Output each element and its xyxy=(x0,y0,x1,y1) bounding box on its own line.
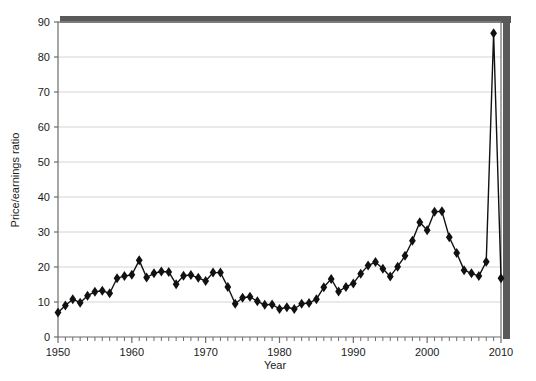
y-tick-label: 0 xyxy=(44,331,50,343)
y-tick-label: 70 xyxy=(38,86,50,98)
y-tick-label: 80 xyxy=(38,51,50,63)
y-axis-title: Price/earnings ratio xyxy=(9,133,21,228)
y-tick-label: 40 xyxy=(38,191,50,203)
x-tick-label: 2000 xyxy=(415,346,439,358)
y-tick-label: 20 xyxy=(38,261,50,273)
chart-figure: 0102030405060708090 19501960197019801990… xyxy=(0,0,536,381)
x-tick-label: 1970 xyxy=(193,346,217,358)
y-tick-label: 50 xyxy=(38,156,50,168)
x-tick-label: 1960 xyxy=(120,346,144,358)
x-axis-title: Year xyxy=(264,359,287,371)
frame-shadow-right xyxy=(503,16,510,339)
y-tick-label: 90 xyxy=(38,16,50,28)
x-tick-label: 1980 xyxy=(267,346,291,358)
x-tick-label: 1990 xyxy=(341,346,365,358)
x-tick-label: 2010 xyxy=(489,346,513,358)
x-tick-label: 1950 xyxy=(46,346,70,358)
y-tick-label: 30 xyxy=(38,226,50,238)
y-tick-label: 60 xyxy=(38,121,50,133)
y-tick-label: 10 xyxy=(38,296,50,308)
price-earnings-ratio-line-chart: 0102030405060708090 19501960197019801990… xyxy=(0,0,536,381)
